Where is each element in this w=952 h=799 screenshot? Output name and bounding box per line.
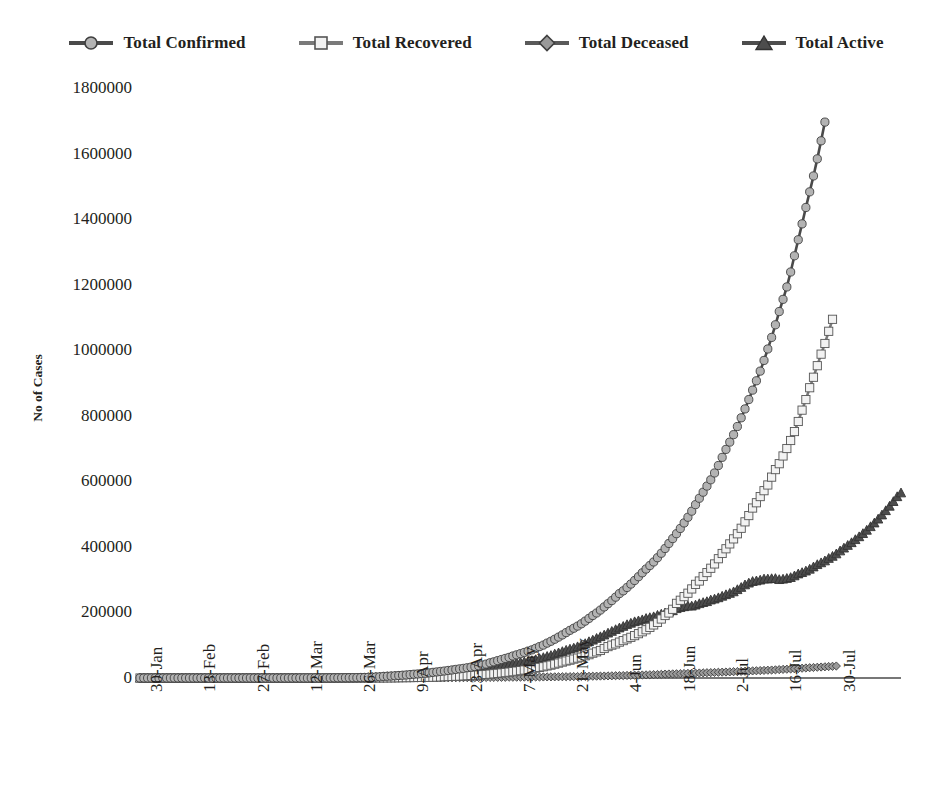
x-tick-label: 30-Jul — [840, 650, 860, 693]
x-tick-label: 18-Jun — [680, 646, 700, 692]
x-tick-label: 13-Feb — [200, 644, 220, 692]
x-tick-label: 4-Jun — [626, 654, 646, 692]
covid-cases-line-chart: Total Confirmed Total Recovered Total De… — [0, 0, 952, 799]
x-tick-label: 23-Apr — [467, 643, 487, 692]
x-tick-label: 27-Feb — [254, 644, 274, 692]
x-tick-label: 16-Jul — [786, 650, 806, 693]
x-tick-label: 12-Mar — [307, 641, 327, 692]
x-tick-label: 21-May — [573, 638, 593, 692]
x-tick-label: 7-May — [520, 647, 540, 692]
x-tick-label: 26-Mar — [360, 641, 380, 692]
x-tick-label: 9-Apr — [413, 651, 433, 692]
x-tick-label: 30-Jan — [147, 647, 167, 692]
x-axis-tick-labels: 30-Jan13-Feb27-Feb12-Mar26-Mar9-Apr23-Ap… — [0, 0, 952, 799]
x-tick-label: 2-Jul — [733, 658, 753, 692]
